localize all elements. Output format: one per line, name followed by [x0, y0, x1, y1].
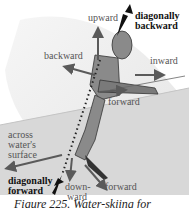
figure-caption: Figure 225. Water-skiing for: [14, 197, 151, 208]
label-diagonally-backward-2: backward: [135, 21, 178, 31]
label-upward: upward: [88, 13, 118, 23]
label-diagonally-forward-2: forward: [8, 186, 43, 196]
label-inward: inward: [150, 56, 178, 66]
label-forward-lower: forward: [105, 182, 137, 192]
label-backward: backward: [44, 51, 83, 61]
skier-head: [112, 31, 132, 59]
label-forward-upper: forward: [108, 97, 140, 107]
label-across-3: surface: [8, 150, 37, 160]
